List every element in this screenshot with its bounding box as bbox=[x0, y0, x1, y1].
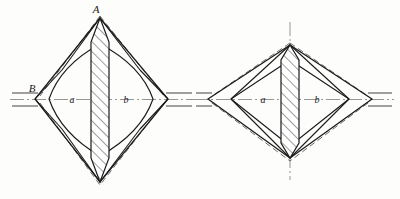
diagram-canvas: A B a b bbox=[0, 0, 400, 199]
label-apex-A: A bbox=[92, 3, 100, 15]
left-rhombus-figure: A B a b bbox=[10, 3, 194, 192]
label-region-b-left: b bbox=[124, 94, 129, 105]
right-rhombus-figure: a b bbox=[194, 22, 394, 180]
label-region-a-right: a bbox=[261, 94, 266, 105]
label-region-a-left: a bbox=[70, 94, 75, 105]
hatched-central-band-left bbox=[85, 10, 117, 192]
diagram-svg: A B a b bbox=[0, 0, 400, 199]
label-left-vertex-B: B bbox=[29, 82, 36, 94]
label-region-b-right: b bbox=[315, 94, 320, 105]
